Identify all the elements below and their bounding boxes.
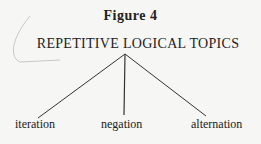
node-iteration: iteration [15,117,55,132]
node-alternation: alternation [191,117,242,132]
node-negation: negation [101,117,142,132]
edge-alternation [125,54,206,116]
edge-negation [124,54,125,115]
root-node: REPETITIVE LOGICAL TOPICS [28,36,248,52]
figure-title: Figure 4 [0,8,261,24]
edge-iteration [38,54,125,118]
